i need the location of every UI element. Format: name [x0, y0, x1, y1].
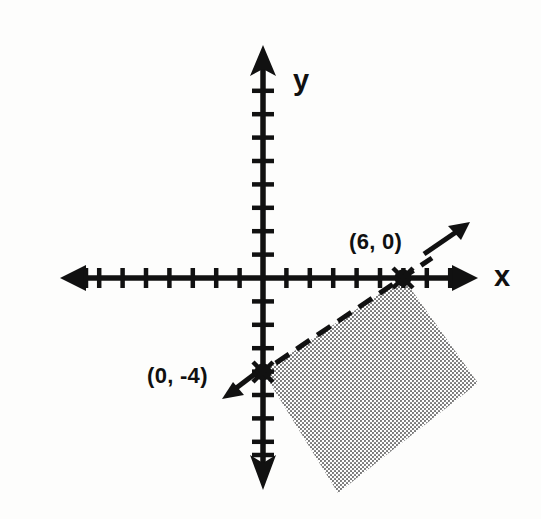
x-axis-label: x — [494, 262, 510, 291]
x-axis-right-arrowhead — [452, 265, 478, 291]
shaded-solution-region — [263, 278, 478, 493]
point-marker-0-neg4 — [253, 362, 273, 382]
y-axis — [250, 45, 276, 490]
point-label-6-0: (6, 0) — [349, 231, 402, 253]
coordinate-plane-figure: y x (6, 0) (0, -4) — [0, 0, 541, 519]
point-label-0-neg4: (0, -4) — [147, 365, 208, 387]
graph-canvas — [0, 0, 541, 519]
x-axis-left-arrowhead — [60, 265, 86, 291]
y-axis-label: y — [293, 66, 309, 95]
leader-arrow-up-right-icon — [424, 222, 470, 254]
x-axis — [60, 265, 478, 291]
leader-arrow-down-left-icon — [222, 373, 256, 399]
point-marker-6-0 — [393, 268, 413, 288]
